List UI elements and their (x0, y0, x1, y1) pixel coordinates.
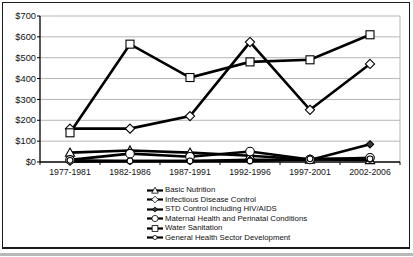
legend-label: Infectious Disease Control (165, 196, 256, 204)
legend-marker-triangle (147, 186, 163, 195)
marker-square-open (126, 40, 134, 48)
marker-square-open (66, 129, 74, 137)
y-axis-tick-label: $100 (15, 136, 36, 146)
legend-item: Basic Nutrition (147, 186, 307, 194)
legend-item: Maternal Health and Perinatal Conditions (147, 215, 307, 223)
marker-square-open (186, 74, 194, 82)
marker-circle-small (67, 157, 73, 163)
x-axis-tick-label: 1977-1981 (49, 167, 91, 177)
funding-line-chart: $0$100$200$300$400$500$600$7001977-19811… (0, 0, 413, 257)
marker-circle-small (127, 158, 133, 164)
bottom-edge-line (0, 253, 413, 256)
marker-square-open (366, 31, 374, 39)
legend-marker-circle-small (147, 233, 163, 242)
series-line (70, 35, 370, 133)
legend-label: Water Sanitation (165, 224, 222, 232)
legend-marker-circle-open (147, 214, 163, 223)
legend-label: STD Control Including HIV/AIDS (165, 205, 277, 213)
marker-square-open (152, 225, 158, 231)
y-axis-tick-label: $400 (15, 74, 36, 84)
y-axis-tick-label: $600 (15, 32, 36, 42)
y-axis-tick-label: $300 (15, 95, 36, 105)
legend-marker-diamond-filled (147, 205, 163, 214)
marker-circle-open (246, 147, 255, 156)
marker-square-open (246, 58, 254, 66)
legend-marker-square-open (147, 224, 163, 233)
marker-circle-small (153, 235, 157, 239)
legend-label: Maternal Health and Perinatal Conditions (165, 215, 307, 223)
x-axis-tick-label: 1997-2001 (289, 167, 331, 177)
legend-item: Infectious Disease Control (147, 196, 307, 204)
marker-circle-small (307, 156, 313, 162)
x-axis-tick-label: 2002-2006 (349, 167, 391, 177)
marker-diamond-filled (366, 141, 373, 148)
legend-item: General Health Sector Development (147, 234, 307, 242)
y-axis-tick-label: $0 (26, 157, 36, 167)
marker-diamond-open (125, 124, 134, 133)
legend-label: Basic Nutrition (165, 186, 215, 194)
y-axis-tick-label: $500 (15, 53, 36, 63)
marker-circle-small (247, 158, 253, 164)
legend-item: Water Sanitation (147, 224, 307, 232)
x-axis-tick-label: 1982-1986 (109, 167, 151, 177)
marker-circle-open (152, 215, 158, 221)
x-axis-tick-label: 1987-1991 (169, 167, 211, 177)
x-axis-tick-label: 1992-1996 (229, 167, 271, 177)
y-axis-tick-label: $200 (15, 115, 36, 125)
marker-diamond-open (152, 196, 159, 203)
marker-square-open (306, 56, 314, 64)
legend-item: STD Control Including HIV/AIDS (147, 205, 307, 213)
y-axis-tick-label: $700 (15, 11, 36, 21)
marker-circle-open (126, 149, 135, 158)
legend-marker-diamond-open (147, 195, 163, 204)
marker-circle-small (367, 156, 373, 162)
marker-circle-small (187, 158, 193, 164)
series-line (70, 42, 370, 129)
legend-label: General Health Sector Development (165, 234, 290, 242)
chart-legend: Basic NutritionInfectious Disease Contro… (147, 186, 307, 242)
marker-diamond-filled (152, 206, 157, 211)
